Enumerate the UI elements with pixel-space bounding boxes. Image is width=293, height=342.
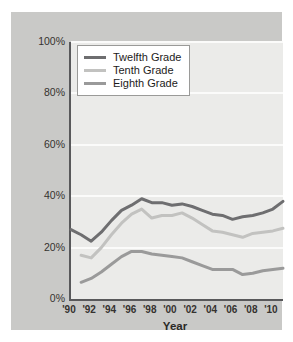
y-axis-tick-label: 60% [21, 139, 65, 150]
legend-item-label: Tenth Grade [113, 64, 174, 77]
y-axis-tick-label: 0% [21, 293, 65, 304]
y-axis-tick-label: 40% [21, 190, 65, 201]
y-axis-tick-label: 100% [21, 36, 65, 47]
chart-panel: 0%20%40%60%80%100% '90'92'94'96'98'00'02… [11, 12, 282, 330]
chart-figure: 0%20%40%60%80%100% '90'92'94'96'98'00'02… [0, 0, 293, 342]
x-axis-tick-label: '10 [258, 304, 284, 316]
legend-swatch-icon [84, 82, 106, 85]
series-line [81, 251, 283, 282]
legend-item: Tenth Grade [84, 64, 181, 77]
chart-legend: Twelfth GradeTenth GradeEighth Grade [77, 45, 190, 96]
legend-item-label: Eighth Grade [113, 77, 178, 90]
legend-swatch-icon [84, 69, 106, 72]
y-axis-tick-label: 80% [21, 87, 65, 98]
y-axis-labels: 0%20%40%60%80%100% [19, 42, 65, 299]
legend-item-label: Twelfth Grade [113, 51, 181, 64]
x-axis-labels: '90'92'94'96'98'00'02'04'06'08'10 [69, 304, 283, 318]
legend-swatch-icon [84, 56, 106, 59]
legend-item: Eighth Grade [84, 77, 181, 90]
legend-item: Twelfth Grade [84, 51, 181, 64]
y-axis-tick-label: 20% [21, 242, 65, 253]
x-axis-title: Year [69, 320, 281, 332]
